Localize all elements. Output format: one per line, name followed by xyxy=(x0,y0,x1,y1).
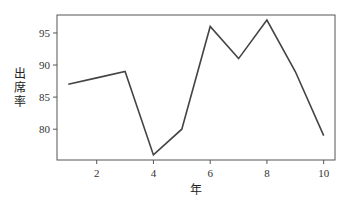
x-axis-title: 年 xyxy=(190,183,202,197)
y-tick-label: 80 xyxy=(39,123,51,135)
y-tick-label: 90 xyxy=(39,59,51,71)
x-tick-label: 8 xyxy=(264,167,270,179)
series-line xyxy=(68,20,323,155)
y-axis-title-char: 出 xyxy=(14,67,26,81)
x-axis: 246810 xyxy=(94,160,330,179)
x-tick-label: 2 xyxy=(94,167,100,179)
x-tick-label: 10 xyxy=(318,167,330,179)
x-tick-label: 4 xyxy=(151,167,157,179)
line-chart: 80859095 246810 年 出席率 xyxy=(0,0,348,210)
y-tick-label: 95 xyxy=(39,27,51,39)
y-axis-title-char: 率 xyxy=(14,94,26,109)
y-axis-title-char: 席 xyxy=(14,80,26,95)
y-tick-label: 85 xyxy=(39,91,51,103)
x-tick-label: 6 xyxy=(207,167,213,179)
plot-frame xyxy=(57,15,335,160)
y-axis: 80859095 xyxy=(39,27,57,135)
y-axis-title: 出席率 xyxy=(14,67,26,109)
